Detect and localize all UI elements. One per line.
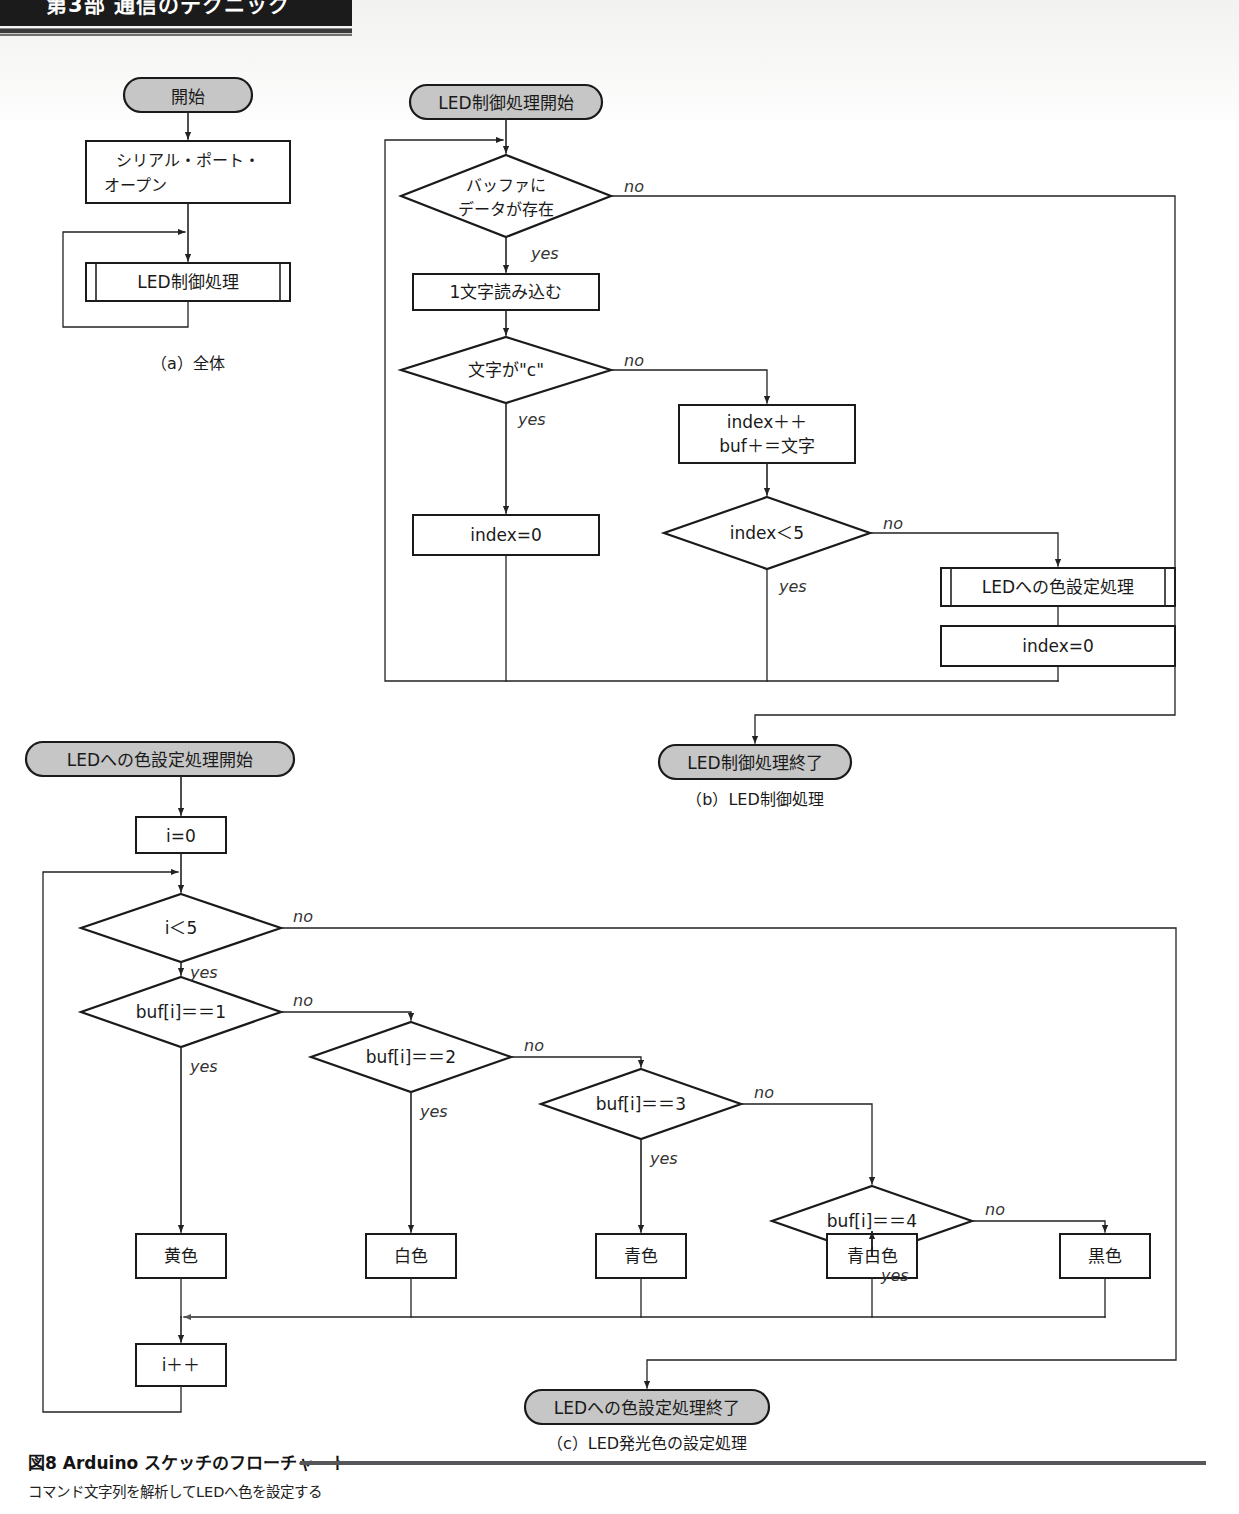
label-c-buf4-yes: yes xyxy=(880,1266,909,1285)
figure-caption-rule xyxy=(300,1461,1206,1465)
label-c-d1-yes: yes xyxy=(189,963,218,982)
label-c-start: LEDへの色設定処理開始 xyxy=(67,750,253,770)
label-b-index-inc-line1: index＋＋ xyxy=(727,412,808,432)
label-b-d3-yes: yes xyxy=(778,577,807,596)
label-c-buf-eq1: buf[i]＝＝1 xyxy=(136,1002,226,1022)
edge-c-buf1-no-to-buf2 xyxy=(281,1012,411,1020)
label-c-buf3-no: no xyxy=(754,1083,774,1102)
label-b-buffer-line1: バッファに xyxy=(466,176,546,195)
label-b-index-reset: index=0 xyxy=(470,525,542,545)
label-c-buf-eq4: buf[i]＝＝4 xyxy=(827,1211,917,1231)
edge-b-d3-no-to-ledcolor xyxy=(870,533,1058,566)
label-b-d2-yes: yes xyxy=(517,410,546,429)
label-c-color-yellow: 黄色 xyxy=(164,1246,198,1266)
caption-a: （a）全体 xyxy=(151,354,225,373)
label-c-buf2-yes: yes xyxy=(419,1102,448,1121)
label-b-index-inc-line2: buf＋＝文字 xyxy=(719,436,815,456)
label-c-i-inc: i＋＋ xyxy=(162,1355,201,1375)
label-b-led-color-proc: LEDへの色設定処理 xyxy=(982,577,1134,597)
edge-c-buf4-no-to-black xyxy=(972,1221,1105,1232)
label-c-color-white: 白色 xyxy=(394,1246,428,1266)
caption-b: （b）LED制御処理 xyxy=(686,790,824,809)
label-c-i-init: i=0 xyxy=(166,826,196,846)
label-b-d1-yes: yes xyxy=(530,244,559,263)
figure-caption-sub: コマンド文字列を解析してLEDへ色を設定する xyxy=(28,1480,322,1501)
label-a-start: 開始 xyxy=(171,87,205,107)
label-b-d2-no: no xyxy=(624,351,644,370)
edge-c-buf2-no-to-buf3 xyxy=(511,1057,641,1067)
label-c-buf3-yes: yes xyxy=(649,1149,678,1168)
label-c-buf1-no: no xyxy=(293,991,313,1010)
edge-c-buf3-no-to-buf4 xyxy=(741,1104,872,1184)
label-b-start: LED制御処理開始 xyxy=(438,93,573,113)
label-b-d3-no: no xyxy=(883,514,903,533)
label-b-read-char: 1文字読み込む xyxy=(450,282,563,302)
label-c-end: LEDへの色設定処理終了 xyxy=(554,1398,740,1418)
label-c-buf2-no: no xyxy=(524,1036,544,1055)
panel-c-group xyxy=(26,742,1176,1424)
label-b-index-lt5: index＜5 xyxy=(730,523,804,543)
label-c-buf-eq3: buf[i]＝＝3 xyxy=(596,1094,686,1114)
flowchart-canvas: 開始 シリアル・ポート・ オープン LED制御処理 （a）全体 LED制御処理開… xyxy=(0,0,1239,1514)
label-c-buf1-yes: yes xyxy=(189,1057,218,1076)
label-c-d1-no: no xyxy=(293,907,313,926)
label-a-serial-open-line1: シリアル・ポート・ xyxy=(116,151,260,170)
label-c-buf4-no: no xyxy=(985,1200,1005,1219)
label-b-char-is-c: 文字が"c" xyxy=(468,360,544,380)
label-a-led-control: LED制御処理 xyxy=(137,272,238,292)
edge-c-d1-no-to-end xyxy=(281,928,1176,1388)
edge-b-d2-no-to-indexinc xyxy=(611,370,767,403)
label-c-buf-eq2: buf[i]＝＝2 xyxy=(366,1047,456,1067)
label-b-d1-no: no xyxy=(624,177,644,196)
label-b-end: LED制御処理終了 xyxy=(687,753,822,773)
label-c-color-black: 黒色 xyxy=(1088,1246,1122,1266)
label-b-buffer-line2: データが存在 xyxy=(458,200,554,219)
label-c-color-paleblue: 青白色 xyxy=(847,1246,898,1266)
page-root: 第3部 通信のテクニック xyxy=(0,0,1239,1514)
label-a-serial-open-line2: オープン xyxy=(104,176,167,195)
label-c-color-blue: 青色 xyxy=(624,1246,658,1266)
label-c-i-lt5: i＜5 xyxy=(165,918,198,938)
label-b-index-reset2: index=0 xyxy=(1022,636,1094,656)
node-b-buffer-has-data xyxy=(401,155,611,237)
caption-c: （c）LED発光色の設定処理 xyxy=(547,1434,747,1453)
